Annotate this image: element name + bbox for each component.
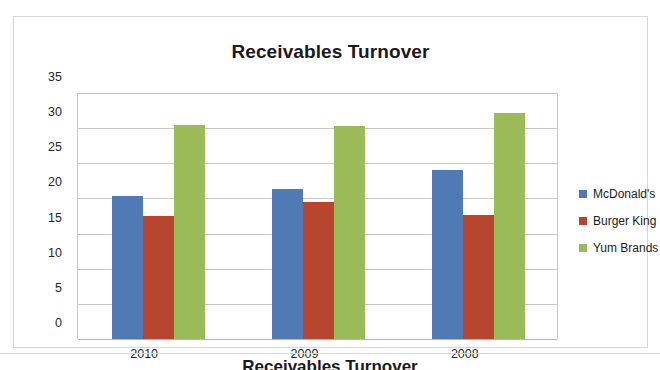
legend-item: Yum Brands	[579, 241, 658, 255]
chart-title: Receivables Turnover	[14, 41, 647, 63]
y-axis-tick-label: 0	[14, 316, 62, 330]
chart-legend: McDonald'sBurger KingYum Brands	[579, 187, 658, 268]
legend-swatch-icon	[579, 244, 587, 252]
y-axis-tick-label: 10	[14, 246, 62, 260]
legend-item-label: McDonald's	[593, 187, 655, 201]
axis-line-zero	[78, 339, 557, 340]
bar	[334, 126, 365, 339]
gridline	[78, 93, 557, 94]
legend-swatch-icon	[579, 190, 587, 198]
legend-item-label: Yum Brands	[593, 241, 658, 255]
gridline	[78, 198, 557, 199]
y-axis-tick-label: 15	[14, 211, 62, 225]
chart-screenshot: Receivables Turnover 35302520151050 McDo…	[0, 0, 660, 370]
bottom-caption: Receivables Turnover	[0, 357, 660, 370]
bar	[174, 125, 205, 339]
bar	[494, 113, 525, 339]
bar	[272, 189, 303, 339]
bar	[112, 196, 143, 339]
y-axis-tick-label: 35	[14, 70, 62, 84]
bar	[463, 215, 494, 339]
bar	[432, 170, 463, 339]
legend-swatch-icon	[579, 217, 587, 225]
legend-item-label: Burger King	[593, 214, 656, 228]
legend-item: McDonald's	[579, 187, 658, 201]
plot-area	[77, 93, 558, 339]
bar	[303, 202, 334, 339]
legend-item: Burger King	[579, 214, 658, 228]
bottom-divider	[0, 353, 660, 354]
chart-frame: Receivables Turnover 35302520151050 McDo…	[13, 16, 648, 348]
y-axis-tick-label: 20	[14, 175, 62, 189]
y-axis-tick-label: 30	[14, 105, 62, 119]
y-axis-tick-label: 5	[14, 281, 62, 295]
gridline	[78, 163, 557, 164]
y-axis-tick-label: 25	[14, 140, 62, 154]
bar	[143, 216, 174, 339]
gridline	[78, 128, 557, 129]
